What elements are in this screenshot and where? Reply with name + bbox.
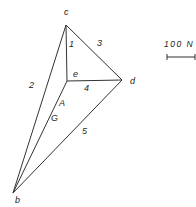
force-polygon-diagram: c d e b 1 2 3 4 5 A G 100 N: [0, 0, 196, 207]
member-label-2: 2: [28, 80, 34, 90]
point-label-b: b: [15, 195, 20, 205]
line-cb-member-2: [13, 25, 66, 193]
member-label-5: 5: [82, 126, 88, 136]
scale-label: 100 N: [164, 39, 194, 49]
point-label-e: e: [73, 69, 78, 79]
member-label-1: 1: [69, 39, 74, 49]
member-label-4: 4: [84, 83, 89, 93]
scale-bar: [167, 54, 195, 60]
line-db-member-5: [13, 80, 122, 193]
force-label-A: A: [58, 98, 65, 108]
line-ce-member-1: [66, 25, 67, 81]
member-label-3: 3: [97, 38, 102, 48]
point-label-d: d: [130, 76, 136, 86]
point-label-c: c: [64, 7, 69, 17]
force-label-G: G: [51, 113, 58, 123]
line-ed-member-4: [67, 80, 122, 81]
